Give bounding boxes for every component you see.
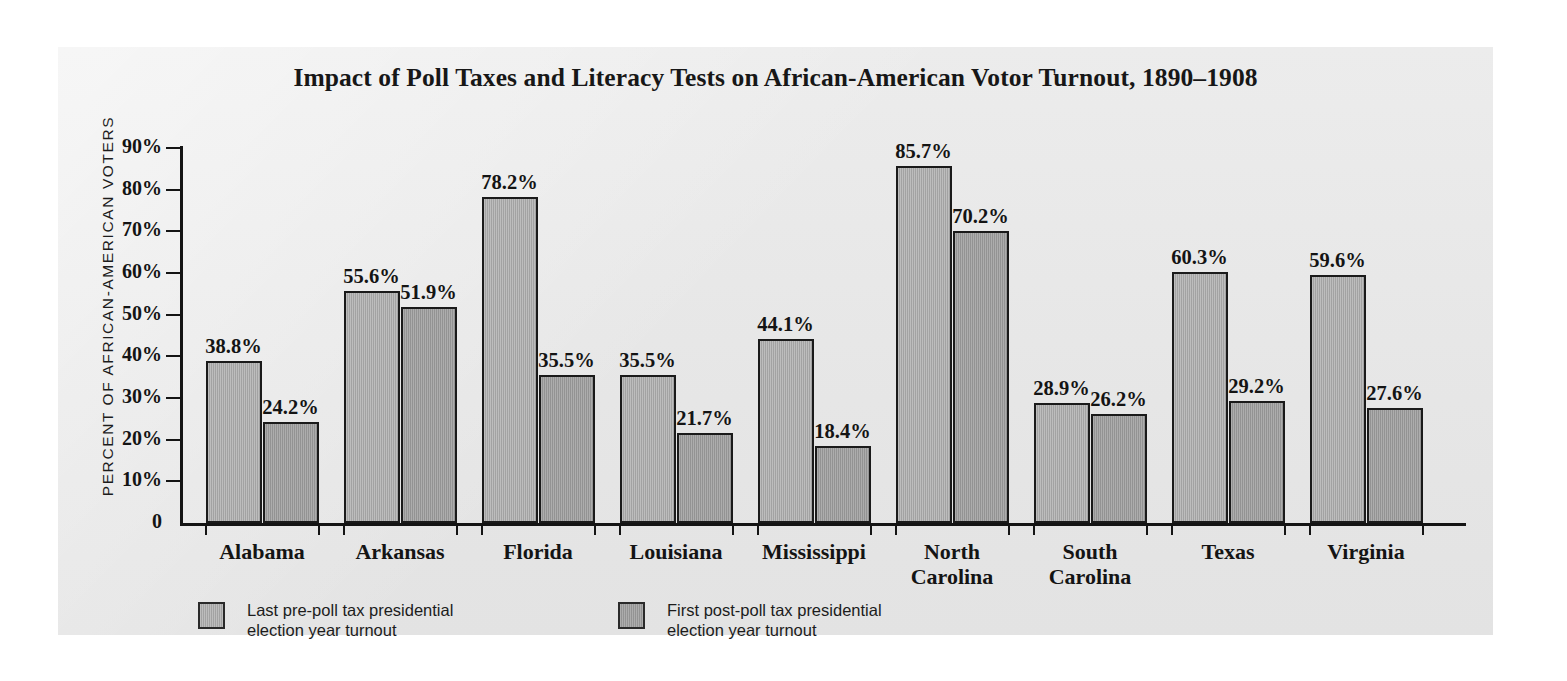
bar-value-label: 70.2% xyxy=(939,205,1023,228)
bar-value-label: 18.4% xyxy=(801,420,885,443)
bar-post xyxy=(1367,408,1423,523)
bar-post xyxy=(1091,414,1147,523)
y-axis-tick-label: 70% xyxy=(88,218,162,241)
x-axis-category-label: Alabama xyxy=(182,539,342,564)
bar-post xyxy=(677,433,733,523)
x-axis-category-label: Mississippi xyxy=(734,539,894,564)
bar-value-label: 35.5% xyxy=(606,349,690,372)
x-axis-tick xyxy=(1422,526,1424,535)
x-axis-tick xyxy=(481,526,483,535)
y-axis-tick xyxy=(166,147,181,149)
x-axis-tick xyxy=(594,526,596,535)
x-axis-category-label: Arkansas xyxy=(320,539,480,564)
y-axis-tick-label: 10% xyxy=(88,468,162,491)
y-axis-tick-label: 50% xyxy=(88,302,162,325)
y-axis-tick-label: 30% xyxy=(88,385,162,408)
legend-label: First post-poll tax presidential electio… xyxy=(667,600,882,640)
x-axis-tick xyxy=(619,526,621,535)
bar-post xyxy=(1229,401,1285,523)
bar-post xyxy=(953,231,1009,524)
y-axis-tick xyxy=(166,230,181,232)
y-axis-tick xyxy=(166,272,181,274)
x-axis-tick xyxy=(1309,526,1311,535)
bar-value-label: 29.2% xyxy=(1215,375,1299,398)
bar-value-label: 78.2% xyxy=(468,171,552,194)
x-axis-tick xyxy=(205,526,207,535)
chart-legend: Last pre-poll tax presidential election … xyxy=(198,600,1198,660)
chart-figure-panel: Impact of Poll Taxes and Literacy Tests … xyxy=(58,47,1493,635)
y-axis-tick xyxy=(166,189,181,191)
bar-value-label: 59.6% xyxy=(1296,249,1380,272)
x-axis-category-label: Florida xyxy=(458,539,618,564)
y-axis-tick xyxy=(166,314,181,316)
bar-post xyxy=(539,375,595,523)
x-axis-tick xyxy=(1171,526,1173,535)
x-axis-category-label: Louisiana xyxy=(596,539,756,564)
bar-value-label: 24.2% xyxy=(249,396,333,419)
y-axis-tick xyxy=(166,397,181,399)
y-axis-tick-label: 90% xyxy=(88,135,162,158)
bar-value-label: 51.9% xyxy=(387,281,471,304)
x-axis-tick xyxy=(1284,526,1286,535)
y-axis-tick-label: 0 xyxy=(88,510,162,533)
plot-area: 38.8%24.2%55.6%51.9%78.2%35.5%35.5%21.7%… xyxy=(180,148,1460,523)
y-axis-tick xyxy=(166,439,181,441)
legend-label: Last pre-poll tax presidential election … xyxy=(247,600,453,640)
bar-value-label: 85.7% xyxy=(882,140,966,163)
y-axis-tick-label: 20% xyxy=(88,427,162,450)
x-axis-tick xyxy=(343,526,345,535)
x-axis-tick xyxy=(456,526,458,535)
chart-title: Impact of Poll Taxes and Literacy Tests … xyxy=(58,63,1493,93)
y-axis-tick-label: 40% xyxy=(88,343,162,366)
legend-swatch-pre xyxy=(198,602,225,629)
bar-value-label: 60.3% xyxy=(1158,246,1242,269)
bar-value-label: 35.5% xyxy=(525,349,609,372)
x-axis-line xyxy=(180,523,1466,526)
x-axis-category-label: Texas xyxy=(1148,539,1308,564)
x-axis-tick xyxy=(732,526,734,535)
x-axis-tick xyxy=(1146,526,1148,535)
x-axis-category-label: Virginia xyxy=(1286,539,1446,564)
bar-value-label: 44.1% xyxy=(744,313,828,336)
bar-value-label: 26.2% xyxy=(1077,388,1161,411)
x-axis-category-label: North Carolina xyxy=(872,539,1032,589)
y-axis-tick xyxy=(166,355,181,357)
legend-entry: Last pre-poll tax presidential election … xyxy=(198,600,453,640)
bar-value-label: 21.7% xyxy=(663,407,747,430)
bar-post xyxy=(263,422,319,523)
y-axis-tick xyxy=(166,480,181,482)
bar-pre xyxy=(1034,403,1090,523)
x-axis-tick xyxy=(895,526,897,535)
bar-value-label: 27.6% xyxy=(1353,382,1437,405)
x-axis-tick xyxy=(870,526,872,535)
bar-pre xyxy=(620,375,676,523)
legend-swatch-post xyxy=(618,602,645,629)
bar-pre xyxy=(344,291,400,523)
x-axis-tick xyxy=(1033,526,1035,535)
bar-post xyxy=(815,446,871,523)
x-axis-tick xyxy=(1008,526,1010,535)
bar-value-label: 38.8% xyxy=(192,335,276,358)
x-axis-tick xyxy=(318,526,320,535)
y-axis-tick-label: 60% xyxy=(88,260,162,283)
bar-pre xyxy=(206,361,262,523)
x-axis-category-label: South Carolina xyxy=(1010,539,1170,589)
x-axis-tick xyxy=(757,526,759,535)
bar-post xyxy=(401,307,457,523)
legend-entry: First post-poll tax presidential electio… xyxy=(618,600,882,640)
y-axis-tick-label: 80% xyxy=(88,177,162,200)
